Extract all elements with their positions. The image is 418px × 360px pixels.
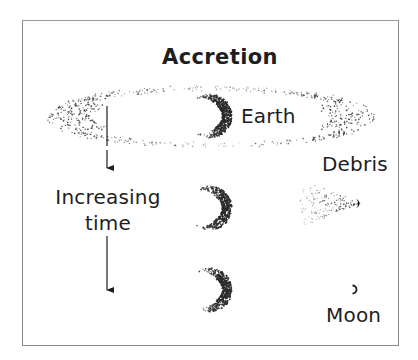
moon-label: Moon (326, 305, 381, 325)
time-label-line-2: time (85, 211, 131, 235)
earth-crescent-stage-2 (196, 186, 233, 231)
time-label-line-1: Increasing (55, 185, 160, 209)
increasing-time-label: Increasing time (40, 184, 176, 236)
diagram-title: Accretion (162, 47, 278, 68)
debris-disk-stipple (47, 85, 374, 148)
moon-crescent-icon (353, 286, 357, 294)
earth-crescent-stage-3 (198, 267, 232, 312)
debris-clump-stipple (300, 185, 361, 225)
earth-crescent-stage-1 (197, 94, 233, 139)
earth-label: Earth (241, 106, 296, 126)
debris-label: Debris (322, 154, 388, 174)
